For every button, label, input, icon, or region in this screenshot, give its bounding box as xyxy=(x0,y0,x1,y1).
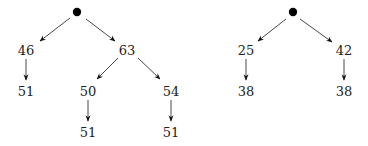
node-63: 63 xyxy=(119,43,136,58)
edge-root-25 xyxy=(258,19,286,41)
node-38-b: 38 xyxy=(336,84,353,99)
left-root-dot xyxy=(73,8,81,16)
edge-63-50 xyxy=(97,58,118,79)
node-51-a: 51 xyxy=(18,84,35,99)
node-42: 42 xyxy=(336,43,353,58)
node-25: 25 xyxy=(238,43,255,58)
node-54: 54 xyxy=(163,84,180,99)
node-50: 50 xyxy=(80,84,97,99)
left-tree-edges xyxy=(26,18,171,121)
right-tree-edges xyxy=(246,19,344,80)
edge-root-42 xyxy=(300,19,332,42)
edge-root-63 xyxy=(86,19,115,41)
node-46: 46 xyxy=(18,43,35,58)
tree-diagram: 46 63 51 50 54 51 51 25 42 38 38 xyxy=(0,0,368,146)
edge-root-46 xyxy=(40,18,70,41)
node-51-c: 51 xyxy=(163,125,180,140)
right-root-dot xyxy=(289,8,297,16)
node-38-a: 38 xyxy=(238,84,255,99)
edge-63-54 xyxy=(138,58,160,79)
node-51-b: 51 xyxy=(80,125,97,140)
